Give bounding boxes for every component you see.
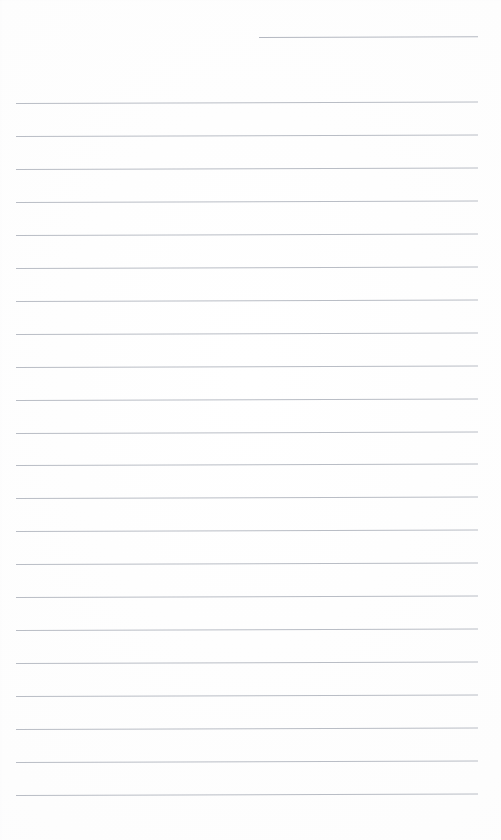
rule-line-17 xyxy=(16,629,478,631)
rule-line-3 xyxy=(16,168,478,170)
rule-line-15 xyxy=(16,563,478,565)
rule-line-19 xyxy=(16,695,478,697)
rule-line-13 xyxy=(16,497,478,499)
scan-texture-overlay xyxy=(0,0,501,840)
rule-line-22 xyxy=(16,794,478,796)
notepaper-page: Blank Ruled Notepaper Page A scanned bla… xyxy=(0,0,501,840)
rule-line-7 xyxy=(16,300,478,302)
rule-line-11 xyxy=(16,432,478,434)
rule-line-18 xyxy=(16,662,478,664)
paper-surface xyxy=(0,0,501,840)
rule-line-8 xyxy=(16,333,478,335)
rule-line-4 xyxy=(16,201,478,203)
rule-line-2 xyxy=(16,135,478,137)
rule-line-12 xyxy=(16,464,478,466)
rule-line-9 xyxy=(16,366,478,368)
header-rule-line xyxy=(259,36,478,38)
rule-line-10 xyxy=(16,399,478,401)
rule-line-6 xyxy=(16,267,478,269)
rule-line-20 xyxy=(16,728,478,730)
rule-line-21 xyxy=(16,761,478,763)
rule-line-1 xyxy=(16,102,478,104)
rule-line-14 xyxy=(16,530,478,532)
rule-line-16 xyxy=(16,596,478,598)
rule-line-5 xyxy=(16,234,478,236)
